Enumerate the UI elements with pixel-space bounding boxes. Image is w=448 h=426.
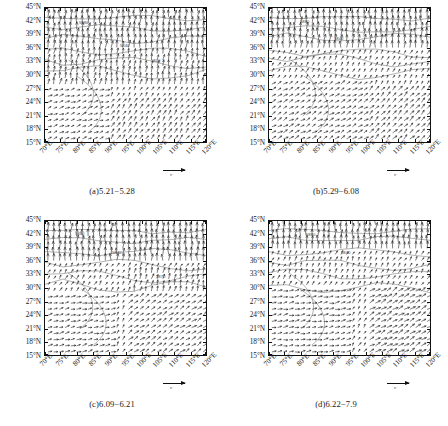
vector-scale-key-a: v <box>163 168 191 184</box>
svg-text:5840: 5840 <box>334 36 344 41</box>
panel-caption-b: (b)5.29−6.08 <box>224 186 448 196</box>
x-tick-mark <box>382 221 383 224</box>
plot-frame-c: 588058405870 <box>44 220 207 356</box>
x-tick-mark <box>158 8 159 11</box>
y-tick-label: 18°N <box>250 126 265 133</box>
x-tick-mark <box>142 8 143 11</box>
plot-area-d: 58805840 <box>268 220 431 356</box>
y-tick-label: 27°N <box>26 85 41 92</box>
x-tick-mark <box>191 8 192 11</box>
y-tick-mark <box>269 34 272 35</box>
y-tick-label: 15°N <box>26 139 41 146</box>
x-tick-mark <box>93 221 94 224</box>
y-tick-mark <box>203 61 206 62</box>
svg-text:5840: 5840 <box>120 43 130 48</box>
vector-key-arrow-icon <box>387 170 409 171</box>
y-tick-mark <box>203 21 206 22</box>
y-tick-label: 21°N <box>26 112 41 119</box>
y-tick-label: 45°N <box>250 216 265 223</box>
x-tick-mark <box>333 221 334 224</box>
y-tick-mark <box>203 302 206 303</box>
y-axis-labels-b: 45°N42°N39°N36°N33°N30°N27°N24°N21°N18°N… <box>224 7 268 143</box>
y-tick-mark <box>203 261 206 262</box>
plot-area-a: 588058405800 <box>44 7 207 143</box>
panel-caption-d: (d)6.22−7.9 <box>224 399 448 409</box>
y-tick-mark <box>269 315 272 316</box>
y-tick-label: 42°N <box>250 17 265 24</box>
y-tick-mark <box>203 48 206 49</box>
y-tick-mark <box>269 342 272 343</box>
y-tick-label: 18°N <box>26 126 41 133</box>
y-tick-label: 30°N <box>250 284 265 291</box>
y-tick-mark <box>203 274 206 275</box>
x-tick-mark <box>126 221 127 224</box>
vector-scale-key-d: v <box>387 381 415 397</box>
y-tick-label: 27°N <box>250 85 265 92</box>
y-tick-label: 33°N <box>26 271 41 278</box>
y-tick-label: 18°N <box>250 339 265 346</box>
y-tick-label: 36°N <box>26 44 41 51</box>
vector-field-d: 58805840 <box>269 221 430 355</box>
y-tick-mark <box>45 102 48 103</box>
y-tick-mark <box>203 342 206 343</box>
plot-frame-b: 58805840 <box>268 7 431 143</box>
y-tick-label: 15°N <box>250 139 265 146</box>
y-tick-label: 39°N <box>26 243 41 250</box>
vector-scale-key-b: v <box>387 168 415 184</box>
vector-key-label: v <box>170 385 172 390</box>
y-tick-mark <box>427 247 430 248</box>
x-tick-mark <box>126 8 127 11</box>
x-tick-mark <box>301 221 302 224</box>
x-tick-mark <box>284 8 285 11</box>
y-tick-mark <box>427 315 430 316</box>
x-tick-mark <box>205 221 206 224</box>
y-tick-mark <box>45 116 48 117</box>
y-tick-mark <box>269 288 272 289</box>
vector-key-label: v <box>394 385 396 390</box>
x-tick-mark <box>77 8 78 11</box>
y-tick-label: 45°N <box>26 3 41 10</box>
y-tick-label: 27°N <box>26 298 41 305</box>
vector-field-a: 588058405800 <box>45 8 206 142</box>
y-tick-mark <box>45 34 48 35</box>
y-tick-mark <box>269 234 272 235</box>
y-tick-mark <box>427 102 430 103</box>
x-tick-mark <box>398 221 399 224</box>
x-tick-mark <box>317 8 318 11</box>
x-tick-mark <box>77 221 78 224</box>
y-tick-label: 18°N <box>26 339 41 346</box>
panel-d: 45°N42°N39°N36°N33°N30°N27°N24°N21°N18°N… <box>224 213 448 426</box>
vector-key-label: v <box>170 172 172 177</box>
x-tick-mark <box>60 221 61 224</box>
y-tick-label: 30°N <box>26 71 41 78</box>
x-tick-mark <box>142 221 143 224</box>
x-tick-mark <box>350 8 351 11</box>
y-tick-mark <box>269 89 272 90</box>
wind-arrows <box>46 8 206 139</box>
y-tick-label: 39°N <box>250 30 265 37</box>
contour-lines <box>45 15 206 132</box>
y-tick-label: 33°N <box>250 58 265 65</box>
y-tick-mark <box>203 75 206 76</box>
y-tick-mark <box>45 315 48 316</box>
y-tick-label: 27°N <box>250 298 265 305</box>
y-tick-mark <box>427 48 430 49</box>
y-tick-mark <box>427 89 430 90</box>
y-tick-mark <box>269 329 272 330</box>
x-tick-mark <box>174 8 175 11</box>
panel-caption-c: (c)6.09−6.21 <box>0 399 224 409</box>
x-tick-mark <box>350 221 351 224</box>
y-tick-label: 45°N <box>250 3 265 10</box>
y-tick-mark <box>203 89 206 90</box>
y-tick-label: 36°N <box>26 257 41 264</box>
y-tick-mark <box>269 61 272 62</box>
y-tick-mark <box>427 116 430 117</box>
y-tick-mark <box>45 75 48 76</box>
svg-text:5800: 5800 <box>151 58 161 63</box>
y-tick-mark <box>45 89 48 90</box>
y-tick-mark <box>427 234 430 235</box>
x-tick-mark <box>269 221 270 224</box>
svg-text:5840: 5840 <box>112 250 122 255</box>
y-tick-mark <box>427 75 430 76</box>
y-tick-mark <box>427 302 430 303</box>
